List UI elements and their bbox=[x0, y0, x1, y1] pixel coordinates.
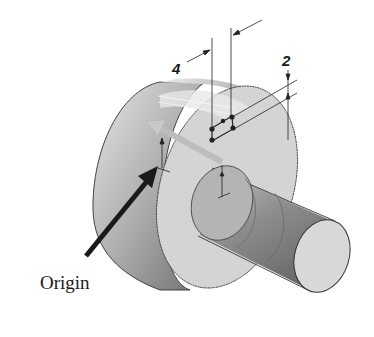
dimension-label-width: 4 bbox=[171, 60, 181, 77]
origin-label: Origin bbox=[40, 272, 90, 293]
cad-part-diagram: 4 2 Origin bbox=[0, 0, 374, 337]
dimension-label-height: 2 bbox=[281, 52, 291, 69]
